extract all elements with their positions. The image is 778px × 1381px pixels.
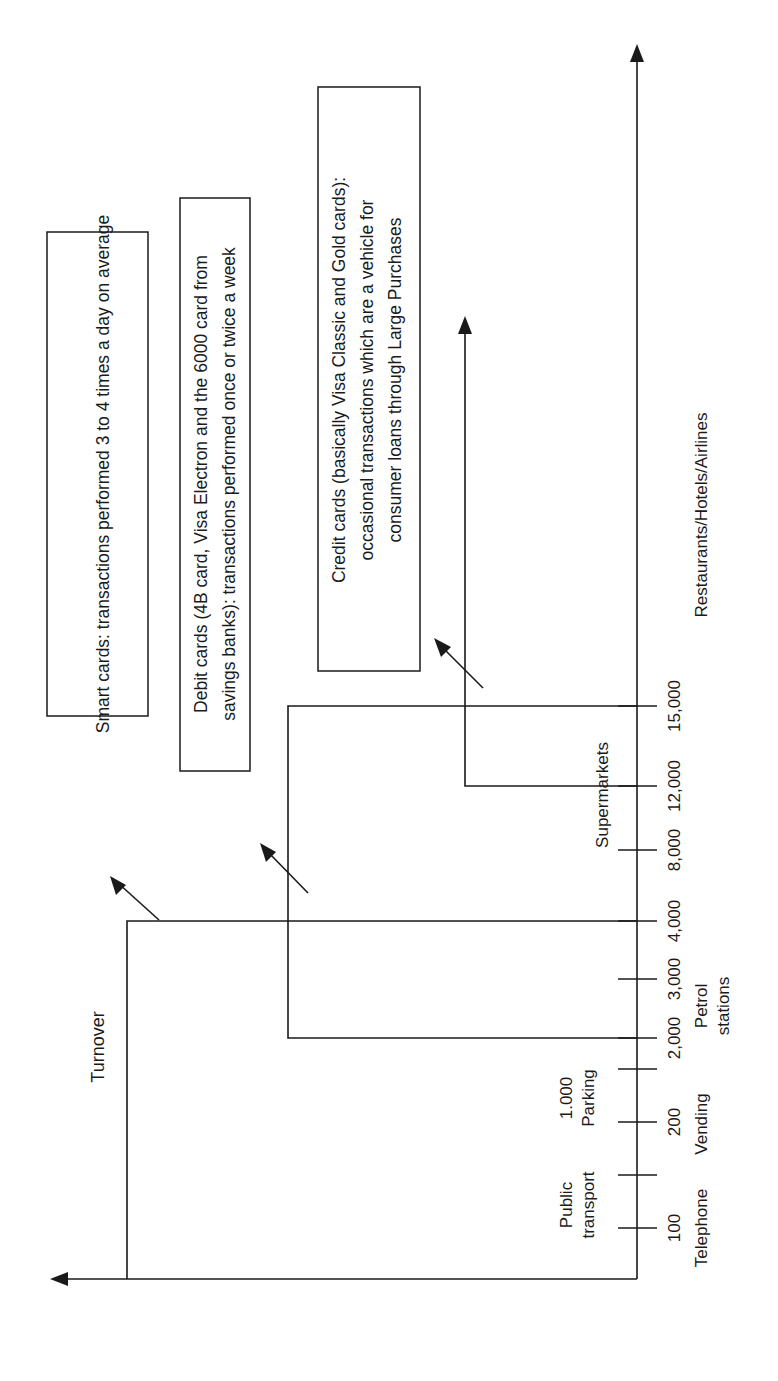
category-supermarkets: Supermarkets [593, 742, 612, 848]
axis-arrow-up-icon [630, 44, 644, 62]
category-public: Public [557, 1181, 576, 1228]
tick-label-100: 100 [665, 1214, 684, 1242]
smart-cards-pointer-icon [110, 876, 126, 895]
category-stations: stations [714, 977, 733, 1036]
turnover-axis-label: Turnover [88, 1011, 108, 1082]
axis-arrow-left-icon [50, 1272, 68, 1286]
credit-cards-text-line3: consumer loans through Large Purchases [385, 217, 405, 542]
debit-cards-pointer-icon [260, 843, 276, 862]
value-axis [630, 44, 644, 1279]
credit-cards-box: Credit cards (basically Visa Classic and… [318, 87, 483, 688]
smart-cards-text: Smart cards: transactions performed 3 to… [93, 215, 113, 733]
credit-cards-text-line1: Credit cards (basically Visa Classic and… [329, 177, 349, 583]
turnover-axis: Turnover [50, 1011, 637, 1286]
card-usage-diagram: Turnover 100 200 2,000 3,000 4,000 8,000… [0, 0, 778, 1381]
credit-cards-segment [458, 316, 637, 786]
tick-label-1000: 1.000 [557, 1077, 576, 1120]
tick-label-12000: 12,000 [665, 760, 684, 812]
credit-cards-text-line2: occasional transactions which are a vehi… [357, 199, 377, 560]
category-transport: transport [579, 1171, 598, 1238]
debit-cards-segment [288, 706, 637, 1038]
category-restaurants: Restaurants/Hotels/Airlines [692, 412, 711, 617]
category-parking: Parking [579, 1069, 598, 1127]
category-petrol: Petrol [692, 984, 711, 1028]
tick-label-8000: 8,000 [665, 829, 684, 872]
category-vending: Vending [692, 1093, 711, 1154]
tick-label-200: 200 [665, 1108, 684, 1136]
debit-cards-text-line1: Debit cards (4B card, Visa Electron and … [191, 255, 211, 713]
tick-label-3000: 3,000 [665, 958, 684, 1001]
tick-label-15000: 15,000 [665, 680, 684, 732]
credit-arrow-up-icon [458, 316, 472, 334]
category-telephone: Telephone [692, 1189, 711, 1267]
tick-label-2000: 2,000 [665, 1017, 684, 1060]
tick-value-labels: 100 200 2,000 3,000 4,000 8,000 12,000 1… [665, 680, 684, 1242]
smart-cards-box: Smart cards: transactions performed 3 to… [47, 215, 159, 920]
category-labels: Telephone Vending Public transport 1.000… [557, 412, 733, 1267]
tick-label-4000: 4,000 [665, 900, 684, 943]
debit-cards-text-line2: savings banks): transactions performed o… [219, 247, 239, 721]
